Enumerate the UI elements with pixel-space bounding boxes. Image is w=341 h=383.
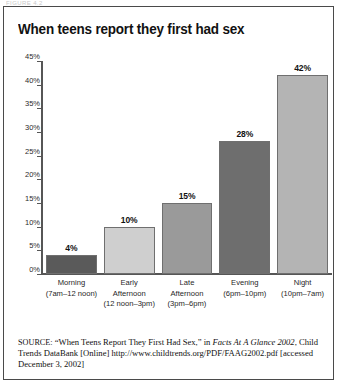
figure-box: When teens report they first had sex 45%… (3, 6, 334, 380)
y-axis-tick (37, 108, 41, 109)
y-axis-tick (37, 156, 41, 157)
y-tick-label: 25% (14, 148, 40, 156)
bar-value-label: 4% (43, 243, 101, 253)
bar[interactable] (219, 141, 270, 274)
y-tick-label: 40% (14, 77, 40, 85)
x-category-label: Evening (6pm–10pm) (216, 278, 274, 299)
bar-value-label: 15% (158, 191, 216, 201)
bar-slot: 15% (158, 61, 216, 274)
x-category-label: Late Afternoon (3pm–6pm) (158, 278, 216, 310)
bar-slot: 42% (274, 61, 332, 274)
y-axis-tick-labels: 45%40%35%30%25%20%15%10%5%0% (14, 57, 40, 273)
bar[interactable] (277, 75, 328, 274)
y-tick-label: 30% (14, 124, 40, 132)
bar[interactable] (46, 255, 97, 274)
y-tick-label: 0% (14, 266, 40, 274)
y-axis-tick (37, 274, 41, 275)
y-axis-tick (37, 85, 41, 86)
bar-value-label: 28% (216, 129, 274, 139)
y-tick-label: 35% (14, 100, 40, 108)
x-category-label: Night (10pm–7am) (274, 278, 332, 299)
source-text-part1: “When Teens Report They First Had Sex,” … (53, 337, 213, 347)
y-tick-label: 45% (14, 53, 40, 61)
y-axis-tick (37, 179, 41, 180)
bar-value-label: 42% (274, 63, 332, 73)
y-axis-tick (37, 132, 41, 133)
bar-series: 4%10%15%28%42% (43, 61, 332, 274)
bar-slot: 28% (216, 61, 274, 274)
y-tick-label: 15% (14, 195, 40, 203)
y-axis-tick (37, 61, 41, 62)
bar-value-label: 10% (100, 215, 158, 225)
y-tick-label: 10% (14, 219, 40, 227)
bar[interactable] (162, 203, 213, 274)
y-axis-tick (37, 250, 41, 251)
y-axis-tick (37, 203, 41, 204)
x-axis-tick-labels: Morning (7am–12 noon)Early Afternoon (12… (43, 278, 332, 324)
x-category-label: Morning (7am–12 noon) (43, 278, 101, 299)
y-tick-label: 5% (14, 242, 40, 250)
source-note: SOURCE: “When Teens Report They First Ha… (18, 337, 321, 369)
chart-plot-area: 45%40%35%30%25%20%15%10%5%0% 4%10%15%28%… (4, 7, 335, 327)
bar[interactable] (104, 227, 155, 274)
source-label: SOURCE: (18, 338, 53, 347)
y-axis-tick (37, 227, 41, 228)
source-title-italic: Facts At A Glance 2002 (213, 337, 295, 347)
y-tick-label: 20% (14, 171, 40, 179)
bar-slot: 4% (43, 61, 101, 274)
x-category-label: Early Afternoon (12 noon–3pm) (100, 278, 158, 310)
bar-slot: 10% (100, 61, 158, 274)
